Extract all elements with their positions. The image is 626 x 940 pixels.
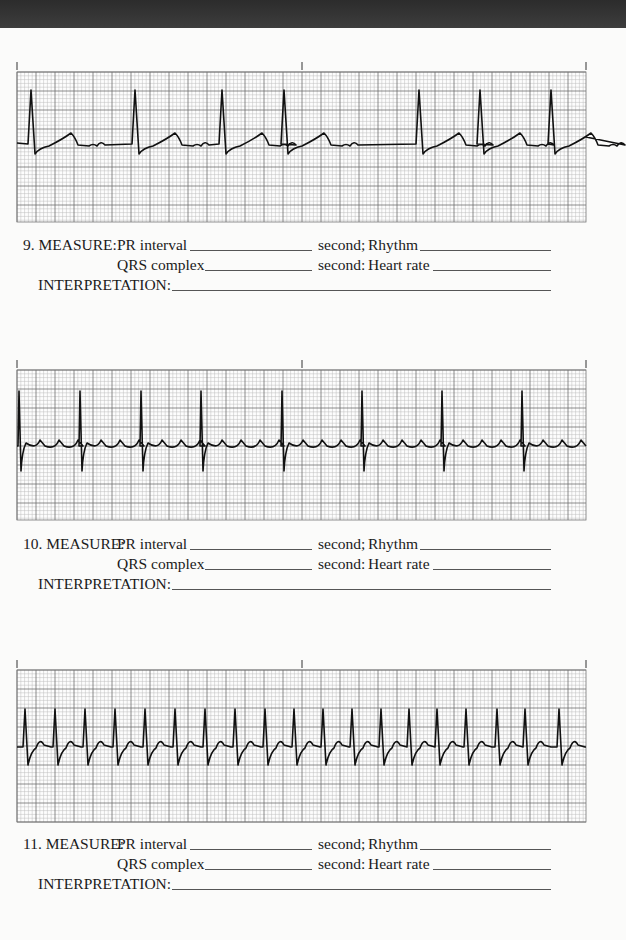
measure-label: 10. MEASURE: <box>23 535 125 553</box>
heart-rate-label: Heart rate <box>368 256 430 274</box>
second-label: second; <box>318 835 365 853</box>
qrs-complex-label: QRS complex <box>117 555 204 573</box>
pr-interval-label: PR interval <box>117 236 187 254</box>
interpretation-field[interactable] <box>172 889 551 890</box>
second-label: second: <box>318 855 365 873</box>
rhythm-field[interactable] <box>420 549 551 550</box>
second-label: second: <box>318 555 365 573</box>
rhythm-label: Rhythm <box>368 236 418 254</box>
qrs-complex-field[interactable] <box>205 270 312 271</box>
rhythm-label: Rhythm <box>368 535 418 553</box>
pr-interval-field[interactable] <box>190 250 312 251</box>
interpretation-field[interactable] <box>172 290 551 291</box>
second-label: second: <box>318 256 365 274</box>
qrs-complex-field[interactable] <box>205 869 312 870</box>
qrs-complex-label: QRS complex <box>117 256 204 274</box>
rhythm-field[interactable] <box>420 849 551 850</box>
interpretation-label: INTERPRETATION: <box>38 575 171 593</box>
pr-interval-field[interactable] <box>190 849 312 850</box>
interpretation-label: INTERPRETATION: <box>38 875 171 893</box>
heart-rate-field[interactable] <box>433 270 551 271</box>
rhythm-field[interactable] <box>420 250 551 251</box>
qrs-complex-label: QRS complex <box>117 855 204 873</box>
interpretation-label: INTERPRETATION: <box>38 276 171 294</box>
heart-rate-field[interactable] <box>433 569 551 570</box>
pr-interval-label: PR interval <box>117 835 187 853</box>
pr-interval-label: PR interval <box>117 535 187 553</box>
rhythm-label: Rhythm <box>368 835 418 853</box>
heart-rate-label: Heart rate <box>368 855 430 873</box>
second-label: second; <box>318 236 365 254</box>
second-label: second; <box>318 535 365 553</box>
measure-label: 11. MEASURE: <box>23 835 124 853</box>
heart-rate-label: Heart rate <box>368 555 430 573</box>
qrs-complex-field[interactable] <box>205 569 312 570</box>
pr-interval-field[interactable] <box>190 549 312 550</box>
interpretation-field[interactable] <box>172 589 551 590</box>
heart-rate-field[interactable] <box>433 869 551 870</box>
measure-label: 9. MEASURE: <box>23 236 117 254</box>
ecg-grid <box>0 0 626 940</box>
